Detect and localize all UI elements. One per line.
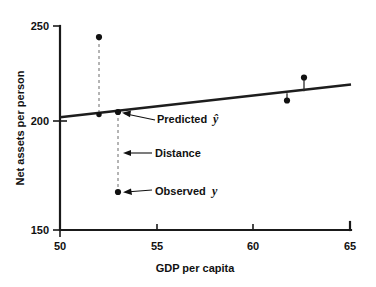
scatter-plot-with-regression-line: 250 200 150 50 55 60 65 GDP per capita N… — [0, 0, 376, 287]
x-tick-label-50: 50 — [54, 240, 66, 252]
axes-group — [60, 26, 351, 230]
y-axis-title: Net assets per person — [14, 70, 26, 185]
data-point-above-line — [301, 74, 307, 80]
x-ticks-group: 50 55 60 65 — [54, 224, 356, 252]
data-point-below-line — [284, 97, 290, 103]
data-point-predicted — [115, 109, 121, 115]
observed-label: Observed — [155, 185, 206, 197]
annotation-distance: Distance — [123, 147, 201, 159]
predicted-symbol: ŷ — [211, 112, 219, 126]
data-point-observed — [115, 189, 121, 195]
x-axis-title: GDP per capita — [156, 262, 236, 274]
y-ticks-group: 250 200 150 — [31, 20, 67, 236]
x-tick-label-60: 60 — [247, 240, 259, 252]
annotation-observed: Observed y — [123, 184, 218, 198]
x-tick-label-65: 65 — [344, 240, 356, 252]
predicted-label: Predicted — [157, 113, 207, 125]
data-point-upper-outlier — [96, 34, 102, 40]
data-point-on-line — [96, 112, 101, 117]
distance-label: Distance — [155, 147, 201, 159]
observed-arrowhead — [123, 189, 132, 195]
x-tick-label-55: 55 — [151, 240, 163, 252]
annotation-predicted: Predicted ŷ — [122, 111, 219, 126]
predicted-arrowhead — [122, 111, 131, 118]
y-tick-label-250: 250 — [31, 20, 49, 32]
y-tick-label-150: 150 — [31, 224, 49, 236]
observed-symbol: y — [210, 184, 218, 198]
distance-arrowhead — [123, 150, 131, 156]
y-tick-label-200: 200 — [31, 115, 49, 127]
chart-container: 250 200 150 50 55 60 65 GDP per capita N… — [0, 0, 376, 287]
